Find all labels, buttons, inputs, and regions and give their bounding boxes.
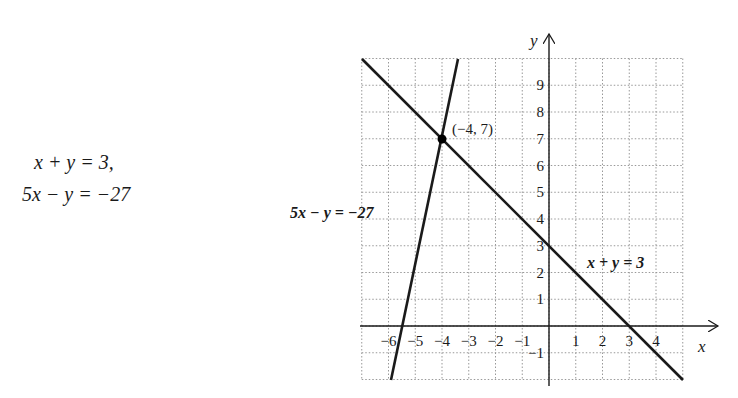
y-tick-label: −1: [528, 345, 544, 361]
y-tick-label: 7: [537, 131, 545, 147]
x-tick-label: 2: [599, 333, 607, 349]
line2-label: 5x − y = −27: [290, 204, 375, 222]
x-tick-label: −5: [407, 333, 423, 349]
point-label: (−4, 7): [452, 121, 493, 138]
y-tick-label: 2: [537, 265, 545, 281]
y-tick-label: 1: [537, 291, 545, 307]
x-tick-label: −4: [434, 333, 450, 349]
y-tick-label: 4: [537, 211, 545, 227]
y-tick-label: 3: [537, 238, 545, 254]
x-tick-label: −6: [381, 333, 397, 349]
x-tick-label: 4: [652, 333, 660, 349]
coordinate-graph: −6−5−4−3−2−11234−1123456789 (−4, 7) 5x −…: [0, 0, 738, 398]
x-axis-label: x: [697, 337, 706, 356]
x-tick-label: −3: [461, 333, 477, 349]
y-tick-label: 5: [537, 184, 545, 200]
intersection-point: [438, 135, 447, 144]
y-axis-label: y: [528, 31, 538, 50]
y-tick-label: 8: [537, 104, 545, 120]
y-tick-label: 6: [537, 158, 545, 174]
line1-label: x + y = 3: [586, 254, 644, 272]
x-tick-label: −2: [488, 333, 504, 349]
x-tick-label: 3: [626, 333, 634, 349]
y-tick-label: 9: [537, 77, 545, 93]
x-tick-label: 1: [572, 333, 580, 349]
